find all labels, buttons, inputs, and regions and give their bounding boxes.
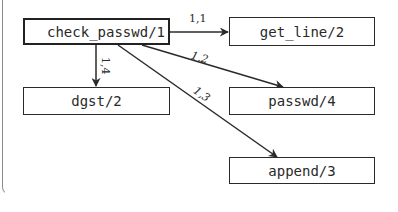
node-get-line[interactable]: get_line/2 [229,17,375,46]
node-passwd[interactable]: passwd/4 [229,87,375,115]
node-check-passwd[interactable]: check_passwd/1 [23,18,170,45]
node-label: check_passwd/1 [47,24,165,40]
call-graph-diagram: check_passwd/1 get_line/2 dgst/2 passwd/… [0,0,398,212]
edge-label-get-line: 1,1 [189,12,207,25]
edge-check-passwd-to-passwd [142,45,283,87]
edge-label-dgst: 1,4 [99,57,112,75]
node-label: passwd/4 [268,93,335,109]
node-label: get_line/2 [260,24,344,40]
node-dgst[interactable]: dgst/2 [23,87,170,115]
node-label: dgst/2 [71,93,122,109]
node-append[interactable]: append/3 [229,157,375,184]
node-label: append/3 [268,163,335,179]
